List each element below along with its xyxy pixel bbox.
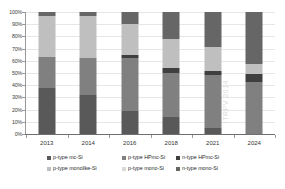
x-tick-mark (275, 135, 276, 138)
legend-swatch-icon (176, 156, 180, 160)
x-tick-mark (109, 135, 110, 138)
legend-item[interactable]: n-type mono-Si (176, 165, 218, 172)
bar-segment[interactable] (38, 88, 55, 134)
y-tick-mark (22, 24, 25, 25)
legend-label: n-type HPmc-Si (182, 154, 219, 161)
bar-segment[interactable] (38, 57, 55, 88)
bar-group[interactable] (234, 12, 276, 134)
legend-row-2: p-type monolike-Sip-type mono-Sin-type m… (0, 165, 285, 176)
bar-segment[interactable] (163, 12, 180, 39)
legend-swatch-icon (122, 156, 126, 160)
y-tick-mark (22, 97, 25, 98)
x-tick-mark (192, 135, 193, 138)
bar-segment[interactable] (121, 55, 138, 59)
y-tick-label: 70% (12, 46, 22, 52)
y-tick-mark (22, 110, 25, 111)
legend-item[interactable]: p-type mc-Si (47, 154, 83, 161)
legend-item[interactable]: p-type mono-Si (122, 165, 164, 172)
y-tick-label: 60% (12, 58, 22, 64)
y-tick-mark (22, 73, 25, 74)
y-tick-mark (22, 122, 25, 123)
x-tick-label: 2018 (165, 140, 178, 146)
y-tick-mark (22, 85, 25, 86)
legend-label: p-type monolike-Si (53, 165, 97, 172)
bar-group[interactable] (68, 12, 110, 134)
y-tick-mark (22, 36, 25, 37)
legend-row-1: p-type mc-Sip-type HPmc-Sin-type HPmc-Si (0, 154, 285, 165)
bar-segment[interactable] (80, 58, 97, 95)
legend-swatch-icon (47, 156, 51, 160)
y-tick-label: 100% (9, 9, 22, 15)
bar-group[interactable] (151, 12, 193, 134)
bar-stack[interactable] (80, 12, 97, 134)
legend-item[interactable]: n-type HPmc-Si (176, 154, 219, 161)
x-tick-label: 2021 (206, 140, 219, 146)
legend-swatch-icon (176, 167, 180, 171)
x-tick-mark (68, 135, 69, 138)
legend-item[interactable]: p-type monolike-Si (47, 165, 97, 172)
bar-segment[interactable] (204, 12, 221, 47)
bar-segment[interactable] (204, 71, 221, 76)
bar-stack[interactable] (38, 12, 55, 134)
x-tick-mark (151, 135, 152, 138)
bar-stack[interactable] (163, 12, 180, 134)
y-tick-mark (22, 12, 25, 13)
bar-segment[interactable] (38, 16, 55, 57)
bar-segment[interactable] (246, 74, 263, 81)
y-tick-label: 20% (12, 107, 22, 113)
x-tick-label: 2024 (248, 140, 261, 146)
y-tick-label: 50% (12, 70, 22, 76)
bar-segment[interactable] (121, 111, 138, 134)
bar-segment[interactable] (163, 117, 180, 134)
legend-label: p-type mono-Si (128, 165, 164, 172)
legend-label: n-type mono-Si (182, 165, 218, 172)
bar-segment[interactable] (121, 12, 138, 24)
bar-stack[interactable] (246, 12, 263, 134)
stacked-bar-chart: 0%10%20%30%40%50%60%70%80%90%100% 201320… (0, 0, 285, 189)
x-tick-label: 2016 (123, 140, 136, 146)
legend-item[interactable]: p-type HPmc-Si (122, 154, 165, 161)
x-tick-mark (234, 135, 235, 138)
bar-group[interactable] (192, 12, 234, 134)
x-tick-label: 2014 (82, 140, 95, 146)
y-tick-label: 80% (12, 33, 22, 39)
x-tick-label: 2013 (40, 140, 53, 146)
y-tick-label: 90% (12, 21, 22, 27)
bar-group[interactable] (109, 12, 151, 134)
bar-stack[interactable] (121, 12, 138, 134)
y-axis: 0%10%20%30%40%50%60%70%80%90%100% (0, 6, 24, 134)
x-tick-mark (26, 135, 27, 138)
bar-segment[interactable] (80, 12, 97, 16)
y-tick-label: 10% (12, 119, 22, 125)
legend-swatch-icon (122, 167, 126, 171)
chart-legend: p-type mc-Sip-type HPmc-Sin-type HPmc-Si… (0, 154, 285, 182)
bar-segment[interactable] (80, 95, 97, 134)
bar-segment[interactable] (163, 39, 180, 68)
legend-swatch-icon (47, 167, 51, 171)
bar-segment[interactable] (204, 128, 221, 134)
x-axis: 201320142016201820212024 (26, 140, 275, 152)
bar-segment[interactable] (121, 58, 138, 110)
bars-layer (26, 12, 275, 134)
y-tick-label: 0% (15, 131, 22, 137)
legend-label: p-type HPmc-Si (128, 154, 165, 161)
bar-segment[interactable] (246, 64, 263, 74)
bar-segment[interactable] (204, 75, 221, 127)
y-tick-mark (22, 134, 25, 135)
legend-label: p-type mc-Si (53, 154, 83, 161)
bar-segment[interactable] (163, 68, 180, 73)
bar-segment[interactable] (204, 47, 221, 70)
y-tick-mark (22, 61, 25, 62)
y-tick-mark (22, 49, 25, 50)
bar-segment[interactable] (121, 24, 138, 55)
plot-area: 0%10%20%30%40%50%60%70%80%90%100% 201320… (0, 6, 285, 146)
bar-segment[interactable] (80, 16, 97, 59)
y-tick-label: 30% (12, 94, 22, 100)
bar-segment[interactable] (163, 73, 180, 117)
y-tick-label: 40% (12, 82, 22, 88)
bar-group[interactable] (26, 12, 68, 134)
bar-segment[interactable] (246, 12, 263, 64)
bar-segment[interactable] (38, 12, 55, 16)
bar-stack[interactable] (204, 12, 221, 134)
bar-segment[interactable] (246, 82, 263, 134)
